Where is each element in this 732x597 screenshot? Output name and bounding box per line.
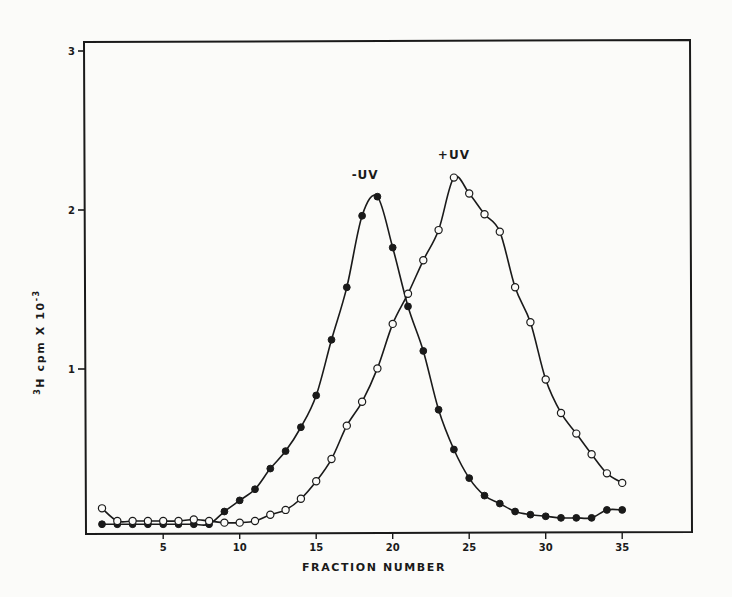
data-point bbox=[282, 506, 289, 513]
data-point bbox=[267, 511, 274, 518]
series-label: +UV bbox=[438, 148, 470, 162]
data-point bbox=[542, 513, 549, 520]
data-point bbox=[144, 517, 151, 524]
data-point bbox=[435, 406, 442, 413]
y-tick-label: 2 bbox=[68, 205, 75, 216]
x-tick-label: 15 bbox=[309, 542, 323, 553]
data-point bbox=[481, 211, 488, 218]
data-point bbox=[374, 365, 381, 372]
data-point bbox=[359, 398, 366, 405]
data-point bbox=[251, 517, 258, 524]
chart-figure: 123 5101520253035 3H cpm X 10-3 FRACTION… bbox=[0, 0, 732, 597]
data-point bbox=[496, 500, 503, 507]
x-tick-label: 5 bbox=[160, 542, 167, 553]
data-point bbox=[114, 517, 121, 524]
data-point bbox=[343, 284, 350, 291]
y-axis-title-text: 3H cpm X 10-3 bbox=[32, 289, 47, 395]
data-point bbox=[604, 507, 611, 514]
data-point bbox=[297, 495, 304, 502]
data-point bbox=[389, 320, 396, 327]
series-label: -UV bbox=[352, 168, 379, 182]
data-point bbox=[328, 336, 335, 343]
data-point bbox=[374, 193, 381, 200]
data-point bbox=[542, 376, 549, 383]
series-curve bbox=[102, 195, 622, 525]
data-point bbox=[619, 507, 626, 514]
data-point bbox=[511, 284, 518, 291]
y-tick-label: 1 bbox=[68, 364, 75, 375]
x-axis-ticks: 5101520253035 bbox=[160, 533, 629, 553]
data-point bbox=[252, 486, 259, 493]
axes-frame bbox=[84, 40, 692, 534]
x-tick-label: 10 bbox=[233, 542, 247, 553]
data-point bbox=[282, 448, 289, 455]
x-tick-label: 30 bbox=[539, 542, 553, 553]
data-point bbox=[573, 430, 580, 437]
data-point bbox=[236, 497, 243, 504]
data-point bbox=[298, 424, 305, 431]
series-layer: -UV+UV bbox=[98, 148, 625, 528]
x-tick-label: 20 bbox=[386, 542, 400, 553]
data-point bbox=[527, 511, 534, 518]
plot-frame bbox=[84, 40, 692, 534]
data-point bbox=[405, 303, 412, 310]
data-point bbox=[328, 455, 335, 462]
data-point bbox=[175, 517, 182, 524]
data-point bbox=[435, 226, 442, 233]
data-point bbox=[404, 290, 411, 297]
data-point bbox=[221, 508, 228, 515]
data-point bbox=[267, 465, 274, 472]
data-point bbox=[573, 514, 580, 521]
data-point bbox=[389, 244, 396, 251]
y-axis-title: 3H cpm X 10-3 bbox=[32, 289, 47, 395]
data-point bbox=[619, 479, 626, 486]
series-minus-uv: -UV bbox=[99, 168, 626, 527]
data-point bbox=[206, 517, 213, 524]
data-point bbox=[451, 446, 458, 453]
data-point bbox=[496, 228, 503, 235]
x-axis-title: FRACTION NUMBER bbox=[302, 561, 446, 574]
y-axis-ticks: 123 bbox=[68, 46, 85, 375]
data-point bbox=[160, 517, 167, 524]
data-point bbox=[313, 478, 320, 485]
series-curve bbox=[102, 176, 622, 523]
data-point bbox=[313, 392, 320, 399]
data-point bbox=[343, 422, 350, 429]
x-tick-label: 25 bbox=[462, 542, 476, 553]
x-tick-label: 35 bbox=[615, 542, 629, 553]
data-point bbox=[558, 514, 565, 521]
data-point bbox=[99, 521, 106, 528]
data-point bbox=[481, 492, 488, 499]
data-point bbox=[98, 505, 105, 512]
data-point bbox=[512, 508, 519, 515]
data-point bbox=[236, 519, 243, 526]
data-point bbox=[450, 174, 457, 181]
data-point bbox=[129, 517, 136, 524]
data-point bbox=[420, 257, 427, 264]
data-point bbox=[557, 409, 564, 416]
data-point bbox=[221, 519, 228, 526]
data-point bbox=[588, 451, 595, 458]
series-plus-uv: +UV bbox=[98, 148, 625, 527]
data-point bbox=[190, 516, 197, 523]
data-point bbox=[588, 514, 595, 521]
data-point bbox=[466, 190, 473, 197]
data-point bbox=[359, 212, 366, 219]
data-point bbox=[527, 319, 534, 326]
data-point bbox=[466, 475, 473, 482]
y-tick-label: 3 bbox=[68, 46, 75, 57]
data-point bbox=[420, 348, 427, 355]
data-point bbox=[603, 470, 610, 477]
